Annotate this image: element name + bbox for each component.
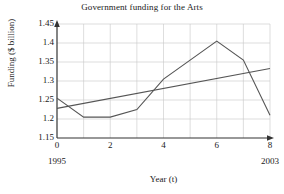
chart-figure: Government funding for the Arts Funding … [0,0,284,194]
gridlines [57,24,270,138]
axes [54,20,274,141]
plot-area [0,0,284,194]
